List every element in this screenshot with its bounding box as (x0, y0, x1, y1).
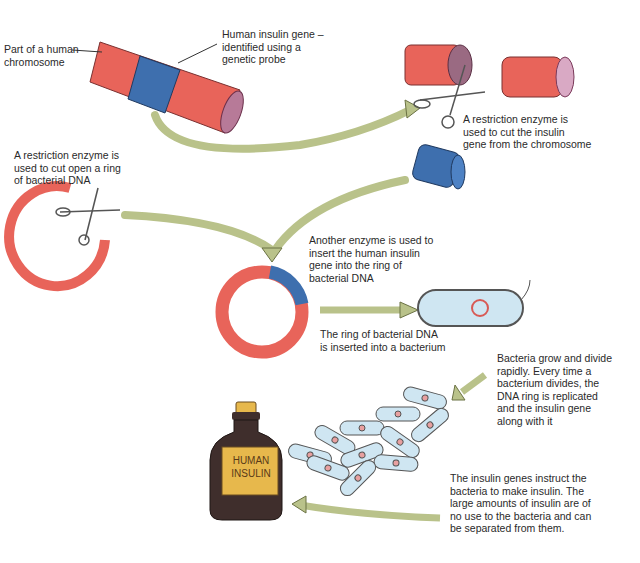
label-make-insulin: The insulin genes instruct the bacteria … (450, 472, 591, 535)
label-insert-gene: Another enzyme is used to insert the hum… (309, 234, 433, 284)
label-cut-ring: A restriction enzyme is used to cut open… (14, 149, 121, 187)
scissors-icon (56, 188, 120, 245)
label-divide: Bacteria grow and divide rapidly. Every … (497, 352, 612, 427)
cut-chromosome-right (502, 57, 574, 97)
label-insert-ring: The ring of bacterial DNA is inserted in… (320, 328, 445, 353)
arrow-to-division (462, 375, 485, 392)
bacteria-colony (287, 386, 451, 499)
bacterium (418, 280, 530, 326)
insulin-gene-fragment (411, 143, 465, 189)
arrow-to-recombine (125, 215, 272, 250)
label-chromosome: Part of a human chromosome (4, 43, 79, 68)
cut-chromosome-left (405, 45, 472, 85)
recombinant-dna-ring (222, 272, 302, 352)
gene-pointer (178, 44, 217, 63)
label-cut-gene: A restriction enzyme is used to cut the … (463, 113, 591, 151)
label-insulin-gene: Human insulin gene – identified using a … (222, 28, 324, 66)
open-bacterial-dna-ring (9, 186, 105, 286)
arrow-to-bottle (300, 505, 440, 518)
bottle-label: HUMAN INSULIN (226, 455, 276, 480)
